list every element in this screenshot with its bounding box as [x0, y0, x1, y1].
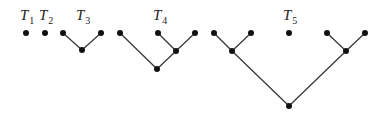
tree-node — [23, 30, 29, 36]
tree-node — [211, 30, 217, 36]
tree-node — [286, 30, 292, 36]
tree-node — [117, 30, 123, 36]
tree-edge — [346, 33, 365, 51]
tree-edge — [120, 33, 157, 69]
tree-node — [248, 30, 254, 36]
tree-edge — [327, 33, 346, 51]
tree-edge — [63, 33, 82, 50]
tree-node — [79, 47, 85, 53]
tree-1: T1 — [20, 7, 34, 36]
tree-edge — [157, 51, 176, 69]
tree-node — [154, 66, 160, 72]
tree-node — [192, 30, 198, 36]
tree-label: T3 — [76, 7, 90, 26]
tree-edge — [232, 33, 251, 51]
tree-node — [42, 30, 48, 36]
tree-edge — [82, 33, 101, 50]
tree-edge — [176, 33, 195, 51]
tree-node — [60, 30, 66, 36]
tree-node — [155, 30, 161, 36]
tree-node — [324, 30, 330, 36]
tree-node — [173, 48, 179, 54]
tree-node — [362, 30, 368, 36]
tree-edge — [289, 51, 346, 106]
tree-edge — [232, 51, 289, 106]
binary-trees-diagram: T1T2T3T4T5 — [0, 0, 390, 116]
tree-4: T4 — [117, 7, 198, 72]
tree-2: T2 — [39, 7, 53, 36]
tree-5: T5 — [211, 7, 368, 109]
tree-edge — [214, 33, 232, 51]
tree-3: T3 — [60, 7, 104, 53]
tree-node — [286, 103, 292, 109]
tree-label: T4 — [153, 7, 167, 26]
tree-label: T2 — [39, 7, 53, 26]
tree-label: T1 — [20, 7, 34, 26]
tree-label: T5 — [283, 7, 297, 26]
tree-edge — [158, 33, 176, 51]
tree-node — [229, 48, 235, 54]
tree-node — [343, 48, 349, 54]
tree-node — [98, 30, 104, 36]
